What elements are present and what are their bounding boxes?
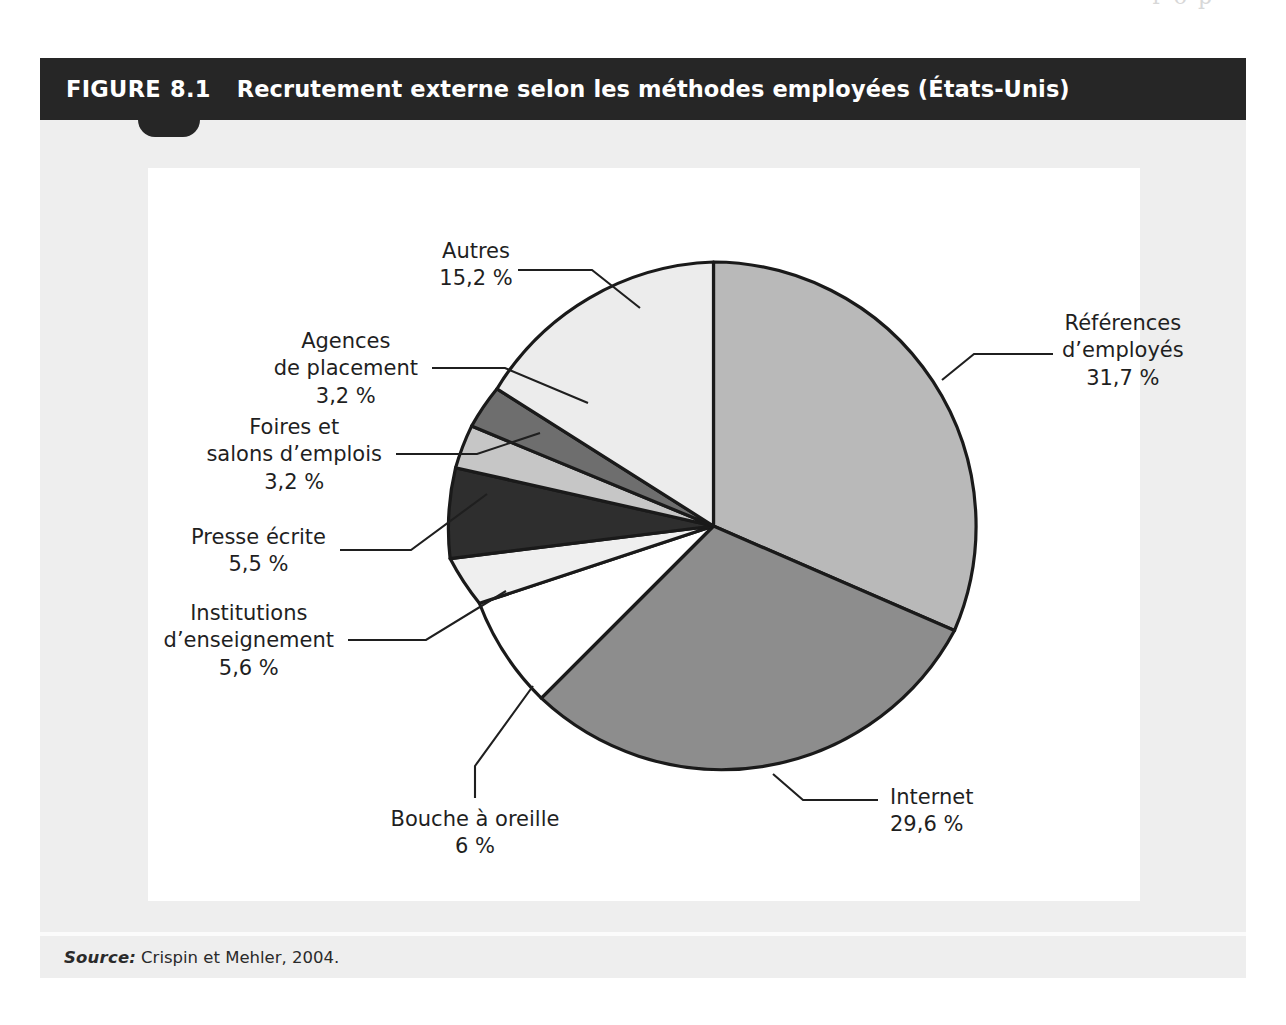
figure-header-bar: FIGURE 8.1 Recrutement externe selon les… [40,58,1246,120]
source-note: Source:Crispin et Mehler, 2004. [64,948,339,967]
figure-label: FIGURE [66,76,161,102]
source-key: Source: [64,948,136,967]
figure-header-inner: FIGURE 8.1 Recrutement externe selon les… [40,76,1070,102]
figure-title: Recrutement externe selon les méthodes e… [237,76,1070,102]
page-bleed-through: r o p [0,0,1286,52]
figure-container: FIGURE 8.1 Recrutement externe selon les… [40,58,1246,978]
bleed-text: r o p [1152,0,1214,9]
chart-panel [148,168,1140,901]
source-separator [40,932,1246,936]
header-notch-decoration [138,120,200,137]
figure-number: 8.1 [170,76,211,102]
source-value: Crispin et Mehler, 2004. [141,948,339,967]
